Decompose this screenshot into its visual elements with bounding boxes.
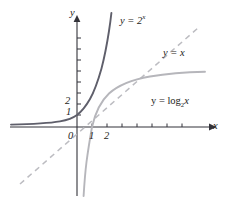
identity-line-label: y = x — [163, 48, 185, 59]
y-tick-label-2: 2 — [65, 96, 70, 107]
x-axis-label: x — [213, 121, 218, 132]
logarithmic-curve — [84, 72, 205, 196]
origin-label: 0 — [68, 131, 73, 142]
x-tick-label-2: 2 — [104, 131, 109, 142]
y-axis-ticks — [77, 38, 81, 115]
exponential-curve — [11, 13, 111, 125]
exponential-curve-label: y = 2x — [120, 14, 145, 26]
y-tick-label-1: 1 — [66, 107, 71, 118]
graph-figure: y = 2x y = x y = log2x x y 0 1 2 1 2 — [0, 0, 227, 212]
y-axis-label: y — [70, 8, 75, 19]
logarithmic-curve-label: y = log2x — [151, 96, 189, 109]
x-tick-label-1: 1 — [89, 131, 94, 142]
plot-canvas — [0, 0, 227, 212]
